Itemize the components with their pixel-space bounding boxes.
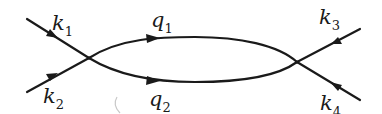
arrow-q2-icon xyxy=(146,76,160,85)
arrow-k4-icon xyxy=(330,82,342,91)
external-line-k2 xyxy=(27,58,89,92)
label-q1: q1 xyxy=(151,8,173,36)
label-k4: k4 xyxy=(320,91,341,114)
label-k2: k2 xyxy=(43,84,64,112)
left-vertex xyxy=(87,56,90,59)
arrow-q1-icon xyxy=(146,34,160,43)
label-q2: q2 xyxy=(149,87,171,114)
scan-smudge xyxy=(115,97,120,113)
right-vertex xyxy=(295,60,298,63)
internal-line-q2 xyxy=(89,58,297,82)
internal-line-q1 xyxy=(89,37,297,62)
external-line-k3 xyxy=(297,29,360,62)
label-k3: k3 xyxy=(319,5,340,33)
feynman-diagram: k1 k2 k3 k4 q1 q2 xyxy=(0,0,382,114)
label-k1: k1 xyxy=(52,11,73,39)
